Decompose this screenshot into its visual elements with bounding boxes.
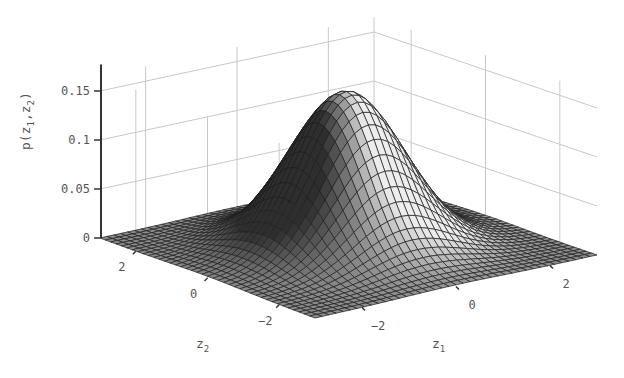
z-axis-label: p(z1,z2) xyxy=(18,92,33,150)
svg-text:0: 0 xyxy=(83,231,90,245)
svg-text:0: 0 xyxy=(468,298,475,312)
svg-text:−2: −2 xyxy=(371,319,385,333)
svg-text:2: 2 xyxy=(118,260,125,274)
gaussian-surface xyxy=(100,91,597,318)
x-axis-label: z1 xyxy=(432,336,445,351)
svg-text:0.15: 0.15 xyxy=(61,84,90,98)
surface-plot: 00.050.10.15−202−202 xyxy=(0,0,624,378)
y-axis-label: z2 xyxy=(196,336,209,351)
svg-text:0.1: 0.1 xyxy=(68,133,90,147)
svg-text:−2: −2 xyxy=(258,314,272,328)
svg-text:0.05: 0.05 xyxy=(61,182,90,196)
svg-text:2: 2 xyxy=(562,277,569,291)
svg-text:0: 0 xyxy=(190,287,197,301)
